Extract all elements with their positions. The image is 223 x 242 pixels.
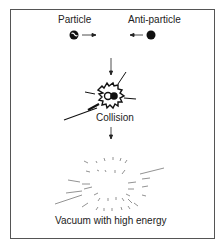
diagram-graphics	[0, 0, 223, 242]
anti-particle-icon	[147, 31, 156, 40]
arrow-down-icon	[110, 127, 113, 139]
particle-icon	[70, 31, 79, 40]
energy-dispersal-icon	[55, 157, 164, 211]
collision-burst-icon	[64, 72, 136, 120]
arrow-left-icon	[130, 34, 143, 37]
arrow-down-icon	[110, 58, 113, 75]
arrow-right-icon	[82, 34, 96, 37]
